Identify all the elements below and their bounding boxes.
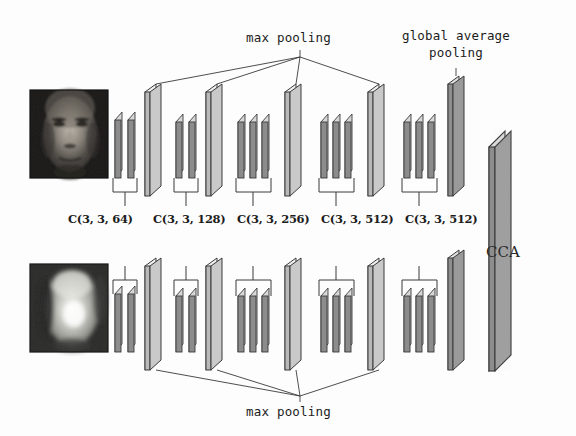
top-pool-slab-3 (285, 84, 301, 196)
top-conv-braces (113, 178, 437, 206)
visible-face-image (30, 88, 108, 180)
top-pool-slab-1 (145, 84, 161, 196)
bottom-max-pooling-connectors (156, 370, 379, 402)
top-stream (115, 76, 464, 196)
bottom-block-3-conv-slabs (238, 288, 269, 352)
top-block-4-conv-slabs (321, 114, 352, 178)
max-pooling-label-top: max pooling (246, 30, 331, 45)
global-average-pooling-label-line1: global average (390, 28, 522, 43)
thermal-face-image (30, 264, 108, 352)
bottom-pool-slab-4 (368, 258, 384, 370)
bottom-block-2-conv-slabs (176, 288, 196, 352)
top-block-5-conv-slabs (404, 114, 435, 178)
bottom-pool-slab-1 (145, 258, 161, 370)
top-pool-slab-2 (206, 84, 222, 196)
conv-label-3: C(3, 3, 256) (237, 212, 309, 226)
global-average-pooling-label-line2: pooling (390, 45, 522, 60)
figure-canvas: max pooling global average pooling max p… (0, 0, 576, 436)
top-max-pooling-connectors (156, 50, 379, 84)
bottom-block-5-conv-slabs (404, 288, 435, 352)
top-block-2-conv-slabs (176, 114, 196, 178)
conv-label-2: C(3, 3, 128) (153, 212, 225, 226)
bottom-stream (115, 250, 464, 370)
conv-label-1: C(3, 3, 64) (68, 212, 133, 226)
bottom-pool-slab-2 (206, 258, 222, 370)
cca-block-label: CCA (486, 243, 516, 261)
top-block-3-conv-slabs (238, 114, 269, 178)
top-pool-slab-4 (368, 84, 384, 196)
conv-label-5: C(3, 3, 512) (405, 212, 477, 226)
max-pooling-label-bottom: max pooling (246, 404, 331, 419)
bottom-block-4-conv-slabs (321, 288, 352, 352)
bottom-conv-braces (113, 266, 437, 296)
bottom-block-1-conv-slabs (115, 286, 135, 352)
top-global-average-pooling-slab (448, 76, 464, 196)
top-block-1-conv-slabs (115, 112, 135, 178)
conv-label-4: C(3, 3, 512) (321, 212, 393, 226)
bottom-pool-slab-3 (285, 258, 301, 370)
bottom-global-average-pooling-slab (448, 250, 464, 370)
